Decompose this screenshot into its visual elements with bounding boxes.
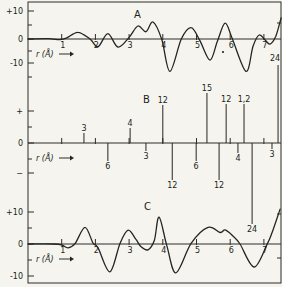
y-tick-label: 0 <box>18 35 23 44</box>
x-tick-label: 4 <box>161 246 166 255</box>
peak-label: 6 <box>194 162 199 171</box>
peak-label: 4 <box>128 119 133 128</box>
peak-label: 3 <box>269 150 274 159</box>
peak-label: 3 <box>143 152 148 161</box>
y-tick-label: + <box>16 107 23 116</box>
y-tick-label: − <box>16 169 23 178</box>
peak-label: 12 <box>158 96 168 105</box>
peak-label: 24 <box>247 225 257 234</box>
x-tick-label: 1 <box>60 246 65 255</box>
peak-label: 24 <box>270 54 280 63</box>
peak-label: 1,2 <box>238 95 251 104</box>
x-tick-label: 5 <box>195 246 200 255</box>
panel-letter-C: C <box>144 201 151 212</box>
y-tick-label: -10 <box>10 59 23 68</box>
peak-label: 12 <box>214 181 224 190</box>
x-tick-label: 6 <box>229 246 234 255</box>
ink-speck <box>222 51 224 53</box>
y-tick-label: 0 <box>18 139 23 148</box>
x-tick-label: 3 <box>128 246 133 255</box>
y-tick-label: +10 <box>6 208 23 217</box>
x-axis-label: r (Å) <box>36 48 54 59</box>
peak-label: 15 <box>202 84 212 93</box>
patterson-projection-figure: 1234567+100-10r (Å)A+0−r (Å)B36431212615… <box>0 0 282 287</box>
y-tick-label: +10 <box>6 7 23 16</box>
x-tick-label: 5 <box>195 41 200 50</box>
peak-label: 4 <box>235 154 240 163</box>
peak-label: 12 <box>167 181 177 190</box>
panel-letter-B: B <box>143 94 150 105</box>
x-axis-label: r (Å) <box>36 253 54 264</box>
y-tick-label: -10 <box>10 272 23 281</box>
y-tick-label: 0 <box>18 240 23 249</box>
x-tick-label: 3 <box>128 41 133 50</box>
peak-label: 12 <box>221 95 231 104</box>
x-tick-label: 1 <box>60 41 65 50</box>
peak-label: 6 <box>105 162 110 171</box>
panel-letter-A: A <box>134 9 141 20</box>
x-tick-label: 6 <box>229 41 234 50</box>
peak-label: 3 <box>81 124 86 133</box>
scanned-figure: 1234567+100-10r (Å)A+0−r (Å)B36431212615… <box>0 0 282 287</box>
x-axis-label: r (Å) <box>36 152 54 163</box>
